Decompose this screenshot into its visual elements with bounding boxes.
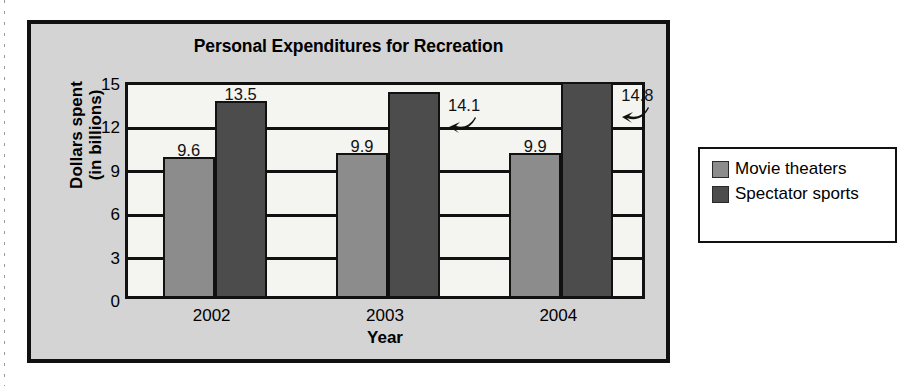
bar-2002-movie-theaters bbox=[163, 157, 215, 296]
bar-value-label: 14.1 bbox=[448, 96, 480, 115]
bar-2004-spectator-sports bbox=[561, 82, 613, 296]
y-axis-tick-label: 6 bbox=[111, 205, 120, 225]
chart-title: Personal Expenditures for Recreation bbox=[31, 36, 666, 57]
x-axis-tick-label: 2004 bbox=[539, 306, 577, 326]
bar-value-label: 9.9 bbox=[524, 137, 547, 156]
bar-value-label: 14.8 bbox=[621, 86, 653, 105]
chart-frame: Personal Expenditures for Recreation Dol… bbox=[27, 20, 670, 363]
legend-swatch-spectator-sports-icon bbox=[712, 186, 729, 203]
bar-2003-spectator-sports bbox=[388, 92, 440, 296]
legend: Movie theaters Spectator sports bbox=[698, 147, 897, 243]
y-axis-tick-label: 3 bbox=[111, 249, 120, 269]
bar-value-label: 9.9 bbox=[351, 137, 374, 156]
x-axis-tick-label: 2002 bbox=[193, 306, 231, 326]
x-axis-title: Year bbox=[125, 328, 645, 348]
legend-label-movie-theaters: Movie theaters bbox=[735, 158, 847, 179]
legend-swatch-movie-theaters-icon bbox=[712, 161, 729, 178]
legend-entry-spectator-sports: Spectator sports bbox=[712, 183, 895, 204]
bar-value-label: 13.5 bbox=[225, 85, 257, 104]
bar-2004-movie-theaters bbox=[509, 153, 561, 296]
bar-value-label: 9.6 bbox=[177, 141, 200, 160]
bar-2002-spectator-sports bbox=[215, 101, 267, 296]
legend-entry-movie-theaters: Movie theaters bbox=[712, 158, 895, 179]
y-axis-tick-label: 0 bbox=[111, 292, 120, 312]
y-axis-title-line-1: Dollars spent bbox=[67, 40, 86, 230]
curved-left-arrow-icon bbox=[621, 106, 651, 124]
x-axis-tick-label: 2003 bbox=[366, 306, 404, 326]
plot-area: 03691215 9.613.59.99.9 14.114.8 bbox=[125, 82, 645, 299]
legend-label-spectator-sports: Spectator sports bbox=[735, 183, 859, 204]
curved-left-arrow-icon bbox=[448, 116, 478, 134]
worksheet-cut-line bbox=[4, 0, 5, 386]
bar-2003-movie-theaters bbox=[336, 153, 388, 296]
y-axis-tick-label: 9 bbox=[111, 162, 120, 182]
y-axis-title: Dollars spent (in billions) bbox=[67, 40, 105, 230]
y-axis-tick-label: 12 bbox=[101, 118, 120, 138]
y-axis-tick-label: 15 bbox=[101, 75, 120, 95]
